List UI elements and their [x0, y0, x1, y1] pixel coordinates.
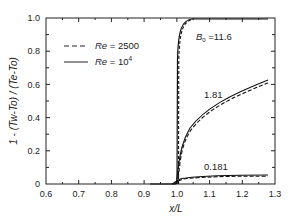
y-tick-label: 0.2	[27, 146, 40, 156]
x-axis-title: x/L	[168, 203, 182, 214]
y-tick-label: 1.0	[27, 13, 40, 23]
x-axis-ticks	[62, 18, 258, 184]
chart: 0.6 0.7 0.8 0.9 1.0 1.1 1.2 1.3 0 0.2 0.…	[0, 0, 294, 224]
x-tick-label: 0.9	[138, 189, 151, 199]
y-tick-label: 0.4	[27, 113, 40, 123]
x-tick-label: 1.1	[203, 189, 216, 199]
y-tick-label: 0.8	[27, 46, 40, 56]
x-tick-label: 1.0	[171, 189, 184, 199]
x-tick-label: 0.6	[40, 189, 53, 199]
x-tick-labels: 0.6 0.7 0.8 0.9 1.0 1.1 1.2 1.3	[40, 189, 282, 199]
x-tick-label: 0.7	[72, 189, 85, 199]
y-tick-labels: 0 0.2 0.4 0.6 0.8 1.0	[27, 13, 40, 189]
x-tick-label: 1.2	[236, 189, 249, 199]
y-tick-label: 0	[35, 179, 40, 189]
annotation-b0-1.81: 1.81	[204, 89, 223, 100]
annotation-b0-0.181: 0.181	[204, 161, 228, 172]
annotation-b0-11.6: B0 =11.6	[196, 31, 232, 43]
y-axis-title: 1 - (Tw-To) / (Te-To)	[8, 57, 19, 145]
x-tick-label: 0.8	[105, 189, 118, 199]
legend-label-re10e4: Re = 104	[95, 55, 133, 67]
legend: Re = 2500 Re = 104	[64, 40, 139, 67]
y-tick-label: 0.6	[27, 80, 40, 90]
legend-label-re2500: Re = 2500	[95, 40, 139, 51]
y-axis-ticks	[46, 35, 275, 168]
x-tick-label: 1.3	[269, 189, 282, 199]
plot-frame	[46, 18, 275, 184]
curves	[150, 19, 268, 184]
